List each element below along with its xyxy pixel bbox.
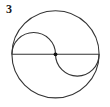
center-point-dot	[54, 52, 58, 56]
upper-left-semicircle-arc	[12, 33, 56, 55]
lower-right-semicircle-arc	[56, 54, 100, 76]
geometry-diagram	[0, 0, 110, 107]
